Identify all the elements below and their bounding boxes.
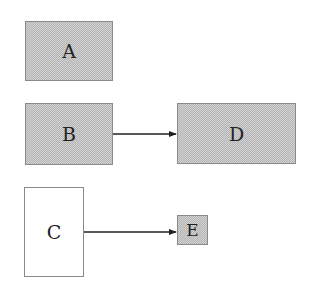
node-b-label: B [62, 123, 76, 145]
node-a-label: A [62, 40, 76, 62]
node-a: A [25, 21, 113, 81]
node-d: D [177, 103, 296, 164]
node-b: B [25, 103, 113, 165]
node-e: E [177, 215, 208, 245]
node-c-label: C [47, 221, 62, 243]
node-c: C [24, 187, 84, 277]
node-d-label: D [229, 123, 244, 145]
node-e-label: E [186, 220, 198, 240]
